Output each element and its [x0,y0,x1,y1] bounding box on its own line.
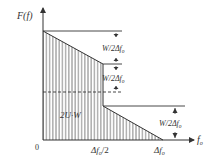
x-tick-full-label: Δfo [153,145,165,156]
spectrum-diagram: F(f) fo 0 Δfo/2 Δfo 2U·W W/2Δfo W/2Δfo W… [0,0,212,162]
dimension-label-2: W/2Δfo [102,74,125,84]
dimension-label-3: W/2Δfo [159,119,182,129]
x-tick-half-label: Δfo/2 [90,145,109,156]
dimension-label-1: W/2Δfo [102,44,125,54]
origin-label: 0 [35,143,39,152]
area-label: 2U·W [60,110,82,120]
x-axis-label: fo [197,134,203,146]
y-axis-label: F(f) [16,10,33,22]
